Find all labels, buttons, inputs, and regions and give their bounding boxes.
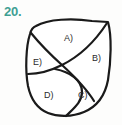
region-label-b: B): [92, 54, 101, 63]
region-label-c: C): [78, 91, 88, 100]
worksheet-figure-screenshot: 20. A) B) C) D) E): [0, 0, 122, 125]
region-label-e: E): [33, 58, 42, 67]
region-label-a: A): [64, 34, 73, 43]
geometry-figure: [0, 0, 122, 125]
region-label-d: D): [44, 91, 54, 100]
